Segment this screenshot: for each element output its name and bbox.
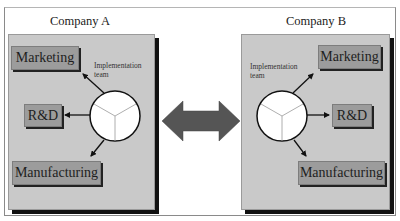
company-a-team-circle-icon (90, 91, 140, 141)
diagram-graphics (0, 0, 400, 221)
company-b-team-circle-icon (257, 91, 307, 141)
bidirectional-arrow-icon (162, 101, 240, 141)
